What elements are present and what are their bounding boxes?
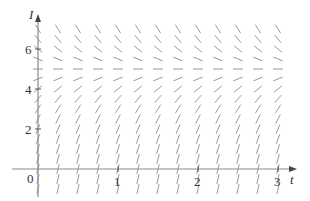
slope-segment xyxy=(94,46,102,52)
x-axis-label: t xyxy=(290,173,294,186)
slope-segment xyxy=(195,25,200,33)
slope-segment xyxy=(256,115,260,124)
slope-segment xyxy=(136,134,139,143)
slope-segment xyxy=(55,35,61,43)
slope-segment xyxy=(135,105,140,113)
slope-segment xyxy=(97,174,99,184)
slope-segment xyxy=(277,154,280,164)
slope-segment xyxy=(217,184,219,194)
slope-segment xyxy=(53,77,62,81)
slope-segment xyxy=(155,105,160,113)
slope-segment xyxy=(153,77,162,81)
x-tick-label-1: 1 xyxy=(114,175,121,188)
slope-segment xyxy=(257,154,260,164)
slope-segment xyxy=(273,77,282,81)
slope-segment xyxy=(157,174,159,184)
slope-segment xyxy=(236,115,240,124)
slope-segment xyxy=(115,105,120,113)
slope-segment xyxy=(256,134,259,143)
slope-segment xyxy=(73,77,82,81)
slope-segment xyxy=(177,184,179,194)
slope-segment xyxy=(215,25,220,33)
slope-segment xyxy=(235,25,240,33)
slope-segment xyxy=(175,25,180,33)
slope-segment xyxy=(115,95,121,103)
slope-segment xyxy=(216,134,219,143)
slope-segment xyxy=(75,105,80,113)
slope-segment xyxy=(155,95,161,103)
slope-segment xyxy=(76,134,79,143)
slope-segment xyxy=(157,154,160,164)
slope-segment xyxy=(137,174,139,184)
slope-segment xyxy=(116,134,119,143)
slope-segment xyxy=(274,86,282,92)
slope-segment xyxy=(133,77,142,81)
slope-segment xyxy=(77,154,80,164)
slope-segment xyxy=(216,124,220,133)
slope-segment xyxy=(233,57,242,61)
slope-segment xyxy=(96,134,99,143)
slope-segment xyxy=(155,35,161,43)
slope-segment xyxy=(95,35,101,43)
slope-segment xyxy=(236,134,239,143)
slope-segment xyxy=(237,174,239,184)
slope-segment xyxy=(57,144,60,154)
slope-segment xyxy=(77,184,79,194)
slope-segment xyxy=(76,115,80,124)
slope-segment xyxy=(273,57,282,61)
slope-segment xyxy=(55,95,61,103)
slope-segment xyxy=(213,57,222,61)
slope-segment xyxy=(137,154,140,164)
slope-segment xyxy=(137,144,140,154)
slope-segment xyxy=(55,25,60,33)
slope-segment xyxy=(194,46,202,52)
slope-segment xyxy=(94,86,102,92)
origin-label: 0 xyxy=(27,172,34,185)
slope-segment xyxy=(276,134,279,143)
slope-segment xyxy=(55,105,60,113)
slope-segment xyxy=(217,144,220,154)
slope-segment xyxy=(255,105,260,113)
slope-segment xyxy=(193,77,202,81)
slope-segment xyxy=(173,77,182,81)
slope-segment xyxy=(75,35,81,43)
slope-segment xyxy=(215,95,221,103)
slope-segment xyxy=(217,154,220,164)
slope-segment xyxy=(256,124,260,133)
slope-segment xyxy=(177,144,180,154)
slope-segment xyxy=(254,46,262,52)
slope-segment xyxy=(77,144,80,154)
slope-segment xyxy=(176,134,179,143)
slope-segment xyxy=(156,124,160,133)
slope-segment xyxy=(136,115,140,124)
slope-segment xyxy=(175,35,181,43)
slope-segment xyxy=(275,95,281,103)
slope-segment xyxy=(56,115,60,124)
slope-segment xyxy=(255,95,261,103)
slope-segment xyxy=(134,46,142,52)
slope-segment xyxy=(157,184,159,194)
y-tick-label-6: 6 xyxy=(25,43,32,56)
slope-segment xyxy=(195,95,201,103)
slope-segment xyxy=(257,184,259,194)
slope-segment xyxy=(56,124,60,133)
slope-segment xyxy=(257,174,259,184)
slope-segment xyxy=(135,95,141,103)
y-axis-label: I xyxy=(29,8,33,21)
slope-segment xyxy=(113,77,122,81)
slope-segment xyxy=(234,46,242,52)
slope-segment xyxy=(216,115,220,124)
slope-segment xyxy=(76,124,80,133)
slope-segment xyxy=(153,57,162,61)
slope-segment xyxy=(54,46,62,52)
slope-segment xyxy=(177,174,179,184)
slope-segment xyxy=(95,105,100,113)
slope-field-plot xyxy=(0,0,310,201)
slope-segment xyxy=(234,86,242,92)
slope-segment xyxy=(116,124,120,133)
slope-segment xyxy=(114,46,122,52)
slope-segment xyxy=(133,57,142,61)
y-tick-label-2: 2 xyxy=(25,123,32,136)
I-axis-arrow-icon xyxy=(35,14,41,22)
slope-segment xyxy=(135,35,141,43)
